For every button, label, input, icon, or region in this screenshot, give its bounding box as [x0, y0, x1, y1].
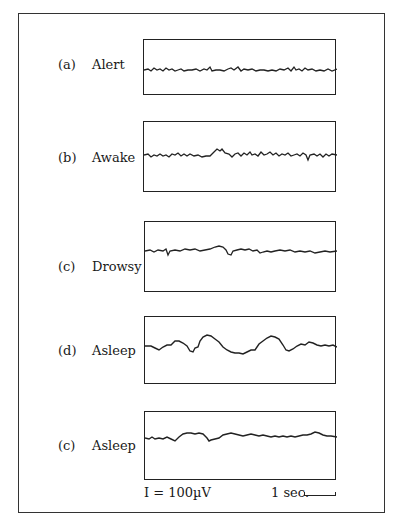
eeg-trace-drowsy: [145, 222, 337, 293]
eeg-trace-awake: [144, 122, 337, 193]
time-scale-bar: [304, 492, 336, 496]
amplitude-scale: I = 100µV: [144, 485, 211, 500]
row-label-asleep-d: (d)Asleep: [58, 343, 136, 358]
row-label-awake: (b)Awake: [58, 150, 135, 165]
eeg-trace-alert: [144, 40, 337, 96]
row-state: Alert: [92, 57, 125, 72]
eeg-trace-asleep-e: [145, 412, 337, 481]
row-label-alert: (a)Alert: [58, 57, 125, 72]
eeg-panel-asleep-d: [144, 316, 336, 384]
row-tag: (a): [58, 57, 92, 72]
row-label-asleep-e: (c)Asleep: [58, 438, 136, 453]
eeg-panel-alert: [143, 39, 336, 95]
row-state: Awake: [92, 150, 135, 165]
row-tag: (b): [58, 150, 92, 165]
row-tag: (c): [58, 259, 92, 274]
row-state: Drowsy: [92, 259, 142, 274]
row-label-drowsy: (c)Drowsy: [58, 259, 142, 274]
row-tag: (d): [58, 343, 92, 358]
eeg-trace-asleep-d: [145, 317, 337, 385]
row-tag: (c): [58, 438, 92, 453]
eeg-panel-asleep-e: [144, 411, 336, 480]
row-state: Asleep: [92, 438, 136, 453]
eeg-panel-drowsy: [144, 221, 336, 292]
eeg-panel-awake: [143, 121, 336, 192]
row-state: Asleep: [92, 343, 136, 358]
